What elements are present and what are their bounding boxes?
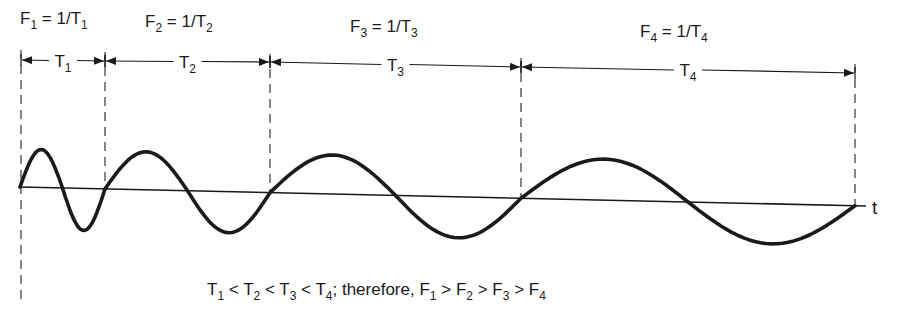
time-axis-label: t bbox=[872, 197, 878, 218]
period-dimension-T3: T3 bbox=[270, 56, 521, 79]
period-dimension-T2: T2 bbox=[105, 53, 270, 76]
dimension-arrow-left bbox=[271, 62, 382, 65]
dimension-arrow-left bbox=[106, 61, 174, 62]
dimension-arrow-right bbox=[410, 65, 521, 68]
frequency-label-F1: F1 = 1/T1 bbox=[20, 9, 88, 32]
period-boundary-lines bbox=[21, 50, 855, 305]
caption: T1 < T2 < T3 < T4; therefore, F1 > F2 > … bbox=[207, 280, 546, 303]
caption-text: T1 < T2 < T3 < T4; therefore, F1 > F2 > … bbox=[207, 280, 546, 303]
dimension-arrow-left bbox=[522, 67, 674, 70]
frequency-label-F3: F3 = 1/T3 bbox=[350, 17, 418, 40]
dimension-arrow-right bbox=[202, 62, 270, 63]
frequency-period-diagram: T1T2T3T4 F1 = 1/T1F2 = 1/T2F3 = 1/T3F4 =… bbox=[0, 0, 897, 322]
dimension-arrow-left bbox=[22, 60, 49, 61]
frequency-label-F2: F2 = 1/T2 bbox=[145, 12, 213, 35]
frequency-label-F4: F4 = 1/T4 bbox=[640, 22, 708, 45]
dimension-arrow-right bbox=[77, 61, 104, 62]
period-dimension-T1: T1 bbox=[21, 52, 105, 75]
frequency-labels: F1 = 1/T1F2 = 1/T2F3 = 1/T3F4 = 1/T4 bbox=[20, 9, 708, 45]
time-axis: t bbox=[20, 187, 878, 218]
period-dimension-lines: T1T2T3T4 bbox=[21, 52, 855, 85]
time-axis-line bbox=[20, 187, 866, 206]
dimension-arrow-right bbox=[702, 70, 854, 73]
period-dimension-T4: T4 bbox=[521, 61, 855, 84]
